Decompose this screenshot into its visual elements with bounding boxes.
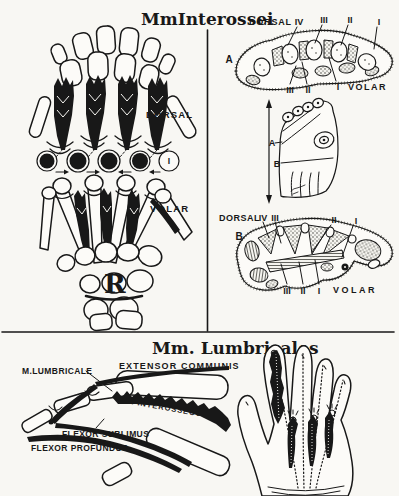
section-b-numeral-ii: II <box>331 215 336 225</box>
numeral-iii-label: III <box>106 157 113 166</box>
carpal-bones: R <box>54 242 164 331</box>
flexor-profundus-label: FLEXOR PROFUNDUS <box>31 443 128 453</box>
anatomy-plate-page: MmInterossei <box>0 0 399 496</box>
anatomical-plate: MmInterossei <box>0 0 399 496</box>
section-b-numeral-i: I <box>355 216 358 226</box>
extensor-label: EXTENSOR COMMUNIS <box>119 361 240 371</box>
figure-mini-hand: A B <box>266 97 338 204</box>
bone <box>140 36 162 63</box>
pinky-ray-bone <box>40 196 54 250</box>
section-b-dorsal-label: DORSAL <box>219 213 260 223</box>
section-b-bottom-ii: II <box>300 286 305 296</box>
figure-cross-section-b: DORSAL IV III II I B III II I VOLAR <box>219 213 392 296</box>
bone <box>119 27 140 57</box>
flexor-sublimus-label: FLEXOR SUBLIMUS <box>62 429 149 439</box>
section-b-volar-label: VOLAR <box>333 285 377 295</box>
numeral-i-label: I <box>168 156 170 166</box>
bone <box>157 52 177 76</box>
section-level-arrow <box>266 99 272 204</box>
mini-hand-a-label: A <box>269 138 276 148</box>
section-b-bottom-iii: III <box>283 286 291 296</box>
lumbricale-label: M.LUMBRICALE <box>22 366 92 376</box>
section-b-panel-letter: B <box>235 231 242 242</box>
mini-hand-b-label: B <box>274 159 281 169</box>
bone <box>96 25 116 54</box>
phalanx-bone-cluster <box>49 25 177 90</box>
lumbricales-title: Mm. Lumbricales <box>152 338 318 358</box>
numeral-ii-label: II <box>138 157 142 166</box>
section-a-volar-label: VOLAR <box>348 82 387 92</box>
numeral-circle-ii: II <box>130 151 150 171</box>
carpal-r-label: R <box>104 269 126 299</box>
section-a-panel-letter: A <box>225 54 232 65</box>
numeral-circle-iii: III <box>98 150 120 172</box>
bone <box>114 53 137 83</box>
numeral-iv-label: IV <box>74 157 82 166</box>
section-a-numeral-i: I <box>378 17 381 27</box>
dorsal-label: DORSAL <box>146 109 193 120</box>
section-a-bottom-iii: III <box>286 85 294 95</box>
section-a-dorsal-label: DORSAL <box>249 17 292 27</box>
section-a-bottom-ii: II <box>305 85 310 95</box>
figure-interossei-hand: MmInterossei <box>28 9 274 331</box>
section-a-bottom-i: I <box>337 82 340 92</box>
figure-lumbricalis-hand <box>238 345 353 496</box>
volar-label: VOLAR <box>150 203 189 214</box>
numeral-v-label: V <box>44 157 50 166</box>
numeral-circle-i: I <box>159 151 179 171</box>
numeral-circle-v: V <box>37 151 57 171</box>
section-b-bottom-i: I <box>318 286 321 296</box>
numeral-circle-iv: IV <box>67 150 89 172</box>
section-a-numeral-ii: II <box>347 15 352 25</box>
pinky-metacarpal-bone <box>28 95 52 139</box>
section-a-numeral-iii: III <box>320 15 328 25</box>
figure-lumbricalis-finger: M. INTEROSSEOUS M.LUMBRICALE EXTENSOR CO… <box>20 361 240 488</box>
section-b-numeral-iv: IV <box>259 213 268 223</box>
section-a-numeral-iv: IV <box>295 17 304 27</box>
section-b-numeral-iii: III <box>271 213 279 223</box>
